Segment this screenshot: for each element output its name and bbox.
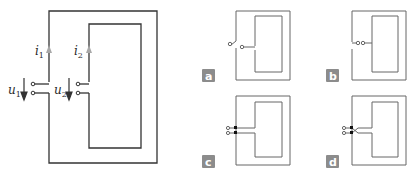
main-circuit	[34, 11, 157, 163]
option-a[interactable]: a	[202, 11, 290, 83]
option-d[interactable]: d	[326, 96, 406, 169]
current-arrow-i1-icon	[46, 45, 52, 53]
voltage-arrow-u1-icon	[21, 92, 27, 100]
label-u1: u1	[8, 83, 21, 99]
diagram-canvas: i1 i2 u1 u2 a b	[0, 0, 412, 178]
svg-text:d: d	[329, 156, 337, 169]
svg-text:a: a	[205, 70, 212, 83]
current-arrow-i2-icon	[86, 45, 92, 53]
label-u2: u2	[54, 83, 67, 99]
current-arrows	[46, 45, 92, 53]
inner-loop-wire	[89, 24, 141, 148]
svg-text:b: b	[329, 70, 337, 83]
voltage-arrow-u2-icon	[66, 92, 72, 100]
option-c[interactable]: c	[202, 96, 290, 169]
label-i2: i2	[74, 44, 83, 60]
label-i1: i1	[35, 44, 44, 60]
option-b[interactable]: b	[326, 11, 406, 83]
svg-text:c: c	[205, 156, 212, 169]
